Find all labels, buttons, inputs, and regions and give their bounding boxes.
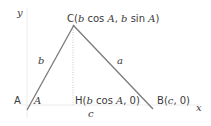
point-h-label: H(b cos A, 0)	[75, 95, 140, 106]
angle-a-label: A	[33, 95, 41, 106]
point-b-label: B(c, 0)	[157, 95, 190, 106]
point-c-label: C(b cos A, b sin A)	[67, 13, 159, 24]
y-axis-label: y	[16, 7, 23, 18]
x-axis-label: x	[196, 102, 202, 113]
side-c-label: c	[88, 108, 94, 119]
side-b-label: b	[38, 55, 44, 66]
triangle-diagram: y x C(b cos A, b sin A) b a c A A H(b co…	[0, 0, 211, 126]
point-a-label: A	[14, 95, 21, 106]
side-a-label: a	[117, 55, 123, 66]
